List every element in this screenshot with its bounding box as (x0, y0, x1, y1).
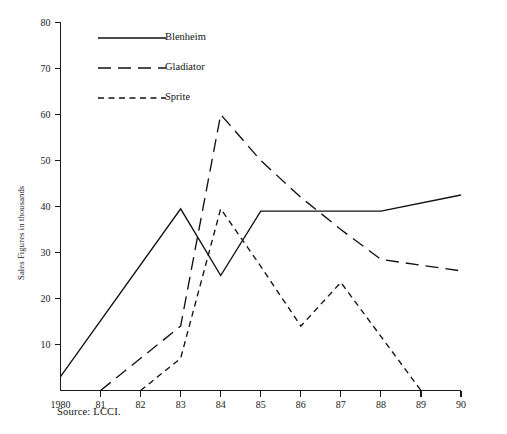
legend-label-sprite: Sprite (165, 91, 190, 102)
legend-swatch-blenheim (98, 34, 168, 42)
y-tick-label: 30 (29, 247, 51, 258)
series-line-sprite (141, 209, 421, 391)
y-tick-label: 60 (29, 109, 51, 120)
x-tick-label: 89 (401, 399, 441, 410)
y-tick-label: 20 (29, 293, 51, 304)
x-tick-label: 87 (321, 399, 361, 410)
y-tick-label: 70 (29, 63, 51, 74)
legend-swatch-gladiator (98, 64, 168, 72)
x-tick-label: 83 (161, 399, 201, 410)
legend-label-blenheim: Blenheim (165, 31, 206, 42)
x-tick-label: 88 (361, 399, 401, 410)
y-tick-label: 80 (29, 17, 51, 28)
x-tick-label: 84 (201, 399, 241, 410)
series-line-gladiator (101, 115, 461, 391)
line-chart-plot (0, 0, 507, 434)
x-tick-label: 90 (441, 399, 481, 410)
source-note: Source: LCCI. (57, 406, 121, 417)
y-tick-label: 40 (29, 201, 51, 212)
chart-figure: Sales Figures in thousands 8070605040302… (0, 0, 507, 434)
legend-label-gladiator: Gladiator (165, 61, 205, 72)
x-tick-label: 82 (121, 399, 161, 410)
x-tick-label: 85 (241, 399, 281, 410)
y-tick-label: 10 (29, 339, 51, 350)
series-line-blenheim (61, 195, 462, 377)
legend-swatch-sprite (98, 94, 168, 102)
y-tick-label: 50 (29, 155, 51, 166)
x-tick-label: 86 (281, 399, 321, 410)
